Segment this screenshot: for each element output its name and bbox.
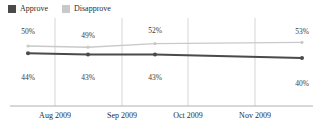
plot-area: 50% 49% 52% 53% 44% 43% 43% 40% [0,18,321,110]
data-point-disapprove [300,41,303,44]
data-label-approve: 40% [295,80,309,88]
approval-rating-line-chart: Approve Disapprove 50% 49% 52% 53% 44% 4… [0,0,321,138]
square-swatch-icon [8,5,16,13]
legend-item-approve: Approve [8,5,48,13]
chart-legend: Approve Disapprove [8,2,111,16]
legend-label-approve: Approve [20,5,48,13]
data-label-disapprove: 53% [295,28,309,36]
square-swatch-icon [62,5,70,13]
data-label-disapprove: 50% [21,28,35,36]
data-point-disapprove [26,44,29,47]
data-point-approve [153,52,157,56]
data-label-disapprove: 49% [81,32,95,40]
data-point-approve [26,51,30,55]
x-tick-label-sep: Sep 2009 [107,112,137,120]
x-axis: Aug 2009 Sep 2009 Oct 2009 Nov 2009 [0,112,321,126]
x-tick-label-nov: Nov 2009 [239,112,271,120]
legend-label-disapprove: Disapprove [74,5,111,13]
data-label-approve: 43% [148,74,162,82]
data-label-approve: 43% [81,74,95,82]
x-tick-label-aug: Aug 2009 [39,112,71,120]
data-label-approve: 44% [21,74,35,82]
data-point-approve [300,56,304,60]
data-point-approve [86,52,90,56]
data-point-disapprove [86,46,89,49]
data-label-disapprove: 52% [148,27,162,35]
series-line-approve [28,53,302,58]
legend-item-disapprove: Disapprove [62,5,111,13]
x-tick-label-oct: Oct 2009 [173,112,203,120]
data-point-disapprove [153,42,156,45]
series-line-disapprove [28,42,302,47]
